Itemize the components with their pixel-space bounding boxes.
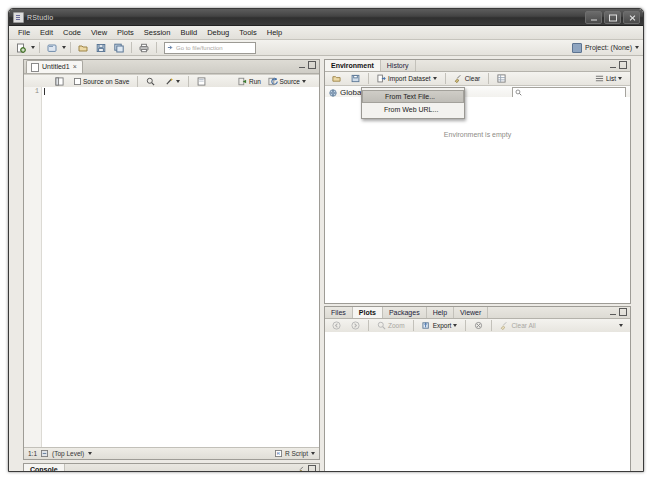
console-pane-controls — [298, 465, 316, 472]
plot-back-button[interactable] — [328, 319, 345, 332]
run-icon — [238, 77, 247, 86]
open-file-icon[interactable] — [75, 40, 91, 55]
menu-help[interactable]: Help — [262, 26, 287, 39]
source-icon — [268, 77, 277, 86]
grid-view-icon — [497, 74, 506, 83]
source-tab-untitled1[interactable]: Untitled1 × — [26, 60, 83, 73]
goto-placeholder: Go to file/function — [176, 45, 223, 51]
code-tools-caret-icon — [176, 80, 180, 83]
refresh-environment-button[interactable] — [493, 72, 510, 85]
magnifier-icon — [146, 77, 155, 86]
export-caret-icon — [453, 324, 457, 327]
file-type-caret-icon — [311, 452, 315, 455]
console-pane: Console — [23, 463, 320, 472]
menu-plots[interactable]: Plots — [112, 26, 139, 39]
tab-files[interactable]: Files — [325, 307, 353, 318]
environment-scope-label[interactable]: Global — [340, 88, 363, 97]
close-tab-icon[interactable]: × — [73, 61, 77, 73]
plot-clear-all-label: Clear All — [511, 322, 535, 329]
new-file-icon[interactable] — [13, 40, 29, 55]
goto-file-function-input[interactable]: Go to file/function — [164, 42, 256, 54]
save-icon[interactable] — [93, 40, 109, 55]
files-plots-pane: Files Plots Packages Help Viewer — [324, 306, 631, 472]
export-icon — [422, 321, 431, 330]
new-file-dropdown-caret[interactable] — [31, 46, 35, 49]
print-icon[interactable] — [136, 40, 152, 55]
minimize-files-icon[interactable] — [610, 309, 616, 315]
maximize-pane-icon[interactable] — [308, 61, 316, 69]
tab-packages[interactable]: Packages — [383, 307, 427, 318]
tab-viewer[interactable]: Viewer — [454, 307, 488, 318]
broom-icon[interactable] — [298, 466, 305, 473]
maximize-files-icon[interactable] — [619, 308, 627, 316]
environment-empty-message: Environment is empty — [444, 131, 511, 138]
scope-caret-icon[interactable] — [88, 452, 92, 455]
plot-export-label: Export — [433, 322, 452, 329]
tab-help[interactable]: Help — [427, 307, 454, 318]
menu-item-from-web-url[interactable]: From Web URL... — [362, 103, 464, 116]
open-workspace-icon — [332, 74, 341, 83]
maximize-console-icon[interactable] — [308, 465, 316, 472]
project-label: Project: (None) — [585, 44, 632, 51]
console-header: Console — [24, 464, 319, 472]
environment-pane-controls — [610, 61, 627, 69]
close-button[interactable] — [623, 11, 640, 24]
plots-toolbar-sep-2 — [413, 320, 414, 331]
tab-history[interactable]: History — [381, 60, 416, 71]
scope-icon — [41, 450, 48, 457]
menu-debug[interactable]: Debug — [202, 26, 234, 39]
project-dropdown-caret[interactable] — [62, 46, 66, 49]
menu-session[interactable]: Session — [139, 26, 176, 39]
menu-bar: File Edit Code View Plots Session Build … — [9, 26, 643, 40]
import-dataset-icon — [377, 74, 386, 83]
menu-build[interactable]: Build — [175, 26, 202, 39]
file-type-selector[interactable]: R R Script — [275, 450, 315, 457]
broom-icon — [500, 321, 509, 330]
new-project-icon[interactable] — [44, 40, 60, 55]
window-title: RStudio — [27, 14, 53, 21]
scope-label[interactable]: (Top Level) — [52, 450, 84, 457]
source-tab-label: Untitled1 — [42, 61, 70, 73]
menu-view[interactable]: View — [86, 26, 112, 39]
plot-zoom-button[interactable]: Zoom — [373, 319, 409, 332]
plot-export-button[interactable]: Export — [418, 319, 462, 332]
menu-item-from-text-file[interactable]: From Text File... — [362, 90, 464, 103]
minimize-env-icon[interactable] — [610, 62, 616, 68]
toolbar-separator-4 — [156, 42, 157, 53]
compile-report-icon — [197, 77, 206, 86]
save-workspace-icon — [351, 74, 360, 83]
load-workspace-button[interactable] — [328, 72, 345, 85]
toolbar-separator — [39, 42, 40, 53]
save-workspace-button[interactable] — [347, 72, 364, 85]
code-text[interactable] — [42, 87, 319, 448]
tab-plots[interactable]: Plots — [353, 307, 383, 318]
import-dataset-button[interactable]: Import Dataset — [373, 72, 441, 85]
code-editor[interactable]: 1 — [24, 87, 319, 448]
wand-icon — [165, 77, 174, 86]
plot-forward-button[interactable] — [347, 319, 364, 332]
plot-clear-all-button[interactable]: Clear All — [496, 319, 539, 332]
menu-tools[interactable]: Tools — [234, 26, 262, 39]
project-caret-icon — [635, 46, 639, 49]
list-view-button[interactable]: List — [591, 72, 626, 85]
plots-overflow-button[interactable] — [615, 319, 627, 332]
menu-file[interactable]: File — [13, 26, 35, 39]
clear-environment-button[interactable]: Clear — [450, 72, 485, 85]
import-caret-icon — [433, 77, 437, 80]
tab-environment[interactable]: Environment — [325, 60, 381, 71]
maximize-button[interactable] — [604, 11, 621, 24]
project-selector[interactable]: Project: (None) — [572, 43, 639, 53]
jump-to-icon — [167, 44, 174, 51]
menu-code[interactable]: Code — [58, 26, 86, 39]
plots-toolbar-sep — [368, 320, 369, 331]
maximize-env-icon[interactable] — [619, 61, 627, 69]
save-all-icon[interactable] — [111, 40, 127, 55]
minimize-button[interactable] — [585, 11, 602, 24]
minimize-pane-icon[interactable] — [299, 62, 305, 68]
plot-remove-button[interactable] — [470, 319, 487, 332]
env-toolbar-sep-3 — [488, 73, 489, 84]
tab-console[interactable]: Console — [24, 464, 65, 472]
menu-edit[interactable]: Edit — [35, 26, 58, 39]
toolbar-separator-3 — [131, 42, 132, 53]
plots-toolbar-sep-4 — [491, 320, 492, 331]
